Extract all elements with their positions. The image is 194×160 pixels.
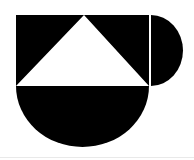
figure-canvas: Abstract geometric composition xyxy=(0,0,194,160)
geometric-figure: Abstract geometric composition xyxy=(0,0,194,160)
bottom-divider xyxy=(0,157,194,158)
